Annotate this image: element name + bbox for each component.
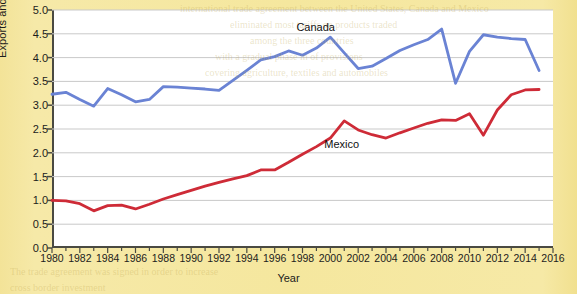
x-tick-label: 1986 bbox=[124, 252, 147, 264]
x-tick-label: 2014 bbox=[513, 252, 536, 264]
x-tick-label: 2008 bbox=[430, 252, 453, 264]
chart-figure: Exports and imports as share of GDP 0.00… bbox=[0, 0, 577, 294]
x-tick-label: 2000 bbox=[319, 252, 342, 264]
x-tick-label: 1988 bbox=[152, 252, 175, 264]
x-tick-label: 1996 bbox=[263, 252, 286, 264]
x-tick-label: 1994 bbox=[235, 252, 258, 264]
x-axis-label: Year bbox=[0, 272, 577, 284]
x-tick-label: 1982 bbox=[68, 252, 91, 264]
x-tick-label: 1992 bbox=[207, 252, 230, 264]
x-tick-label: 2004 bbox=[374, 252, 397, 264]
x-tick-label: 1980 bbox=[40, 252, 63, 264]
series-line-canada bbox=[52, 29, 539, 106]
x-tick-label: 2010 bbox=[458, 252, 481, 264]
series-annotation-mexico: Mexico bbox=[324, 138, 359, 150]
x-tick-label: 1990 bbox=[179, 252, 202, 264]
x-tick-label: 2002 bbox=[346, 252, 369, 264]
x-tick-label: 2016 bbox=[541, 252, 564, 264]
x-tick-label: 1984 bbox=[96, 252, 119, 264]
series-line-mexico bbox=[52, 89, 539, 210]
chart-canvas bbox=[0, 0, 577, 294]
x-tick-label: 2012 bbox=[486, 252, 509, 264]
series-annotation-canada: Canada bbox=[296, 21, 335, 33]
x-tick-label: 2006 bbox=[402, 252, 425, 264]
x-tick-label: 1998 bbox=[291, 252, 314, 264]
